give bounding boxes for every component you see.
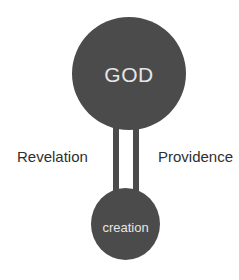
creation-node: creation — [91, 188, 160, 260]
god-node-label: GOD — [104, 63, 153, 87]
revelation-label: Revelation — [17, 148, 88, 165]
providence-label: Providence — [158, 148, 233, 165]
creation-node-label: creation — [102, 220, 148, 235]
god-node: GOD — [72, 17, 186, 130]
